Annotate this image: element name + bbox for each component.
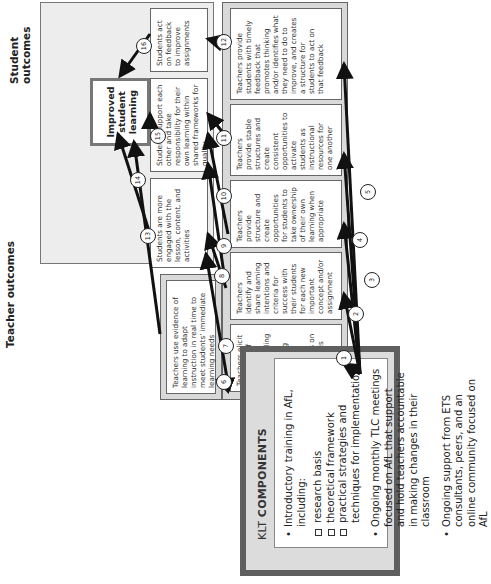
connector-label-3: 3 xyxy=(364,272,380,288)
connector-label-13: 13 xyxy=(140,228,156,244)
connector-label-9: 9 xyxy=(216,238,232,254)
klt-item-ongoing-support: Ongoing support from ETS consultants, pe… xyxy=(441,367,491,537)
connector-label-7: 7 xyxy=(218,338,234,354)
connector-label-2: 2 xyxy=(348,306,364,322)
connector-label-10: 10 xyxy=(216,188,232,204)
connector-label-11: 11 xyxy=(216,130,232,146)
connector-label-1: 1 xyxy=(336,350,352,366)
connector-label-6: 6 xyxy=(216,374,232,390)
connector-label-16: 16 xyxy=(136,38,152,54)
connector-label-15: 15 xyxy=(150,128,166,144)
connector-label-8: 8 xyxy=(214,268,230,284)
connector-label-14: 14 xyxy=(130,172,146,188)
connector-label-5: 5 xyxy=(360,184,376,200)
connector-label-12: 12 xyxy=(216,34,232,50)
connector-label-4: 4 xyxy=(352,232,368,248)
